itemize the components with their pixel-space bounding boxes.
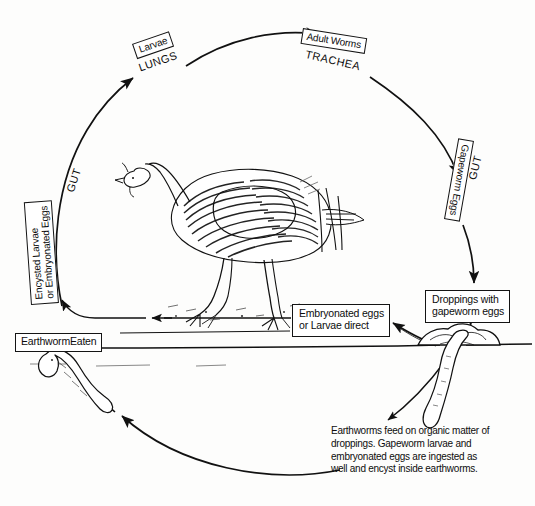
arrow-gut-to-droppings [463, 225, 474, 283]
arc-trachea-to-gapeworm-eggs [370, 77, 458, 175]
caption-earthworms-note: Earthworms feed on organic matter of dro… [331, 425, 533, 476]
label-embryonated-eggs: Embryonated eggs or Larvae direct [292, 304, 390, 337]
arc-lungs-to-trachea [186, 33, 318, 66]
artboard: Larvae LUNGS Adult Worms TRACHEA Gapewor… [0, 0, 535, 506]
arc-caption-to-earthworm [122, 416, 340, 475]
earthworm-illustration-left [39, 349, 113, 413]
arc-gut-to-lungs [56, 78, 133, 306]
diagram-canvas: Larvae LUNGS Adult Worms TRACHEA Gapewor… [0, 0, 535, 506]
label-droppings: Droppings with gapeworm eggs [425, 290, 510, 323]
label-earthworm-eaten: EarthwormEaten [15, 333, 102, 352]
